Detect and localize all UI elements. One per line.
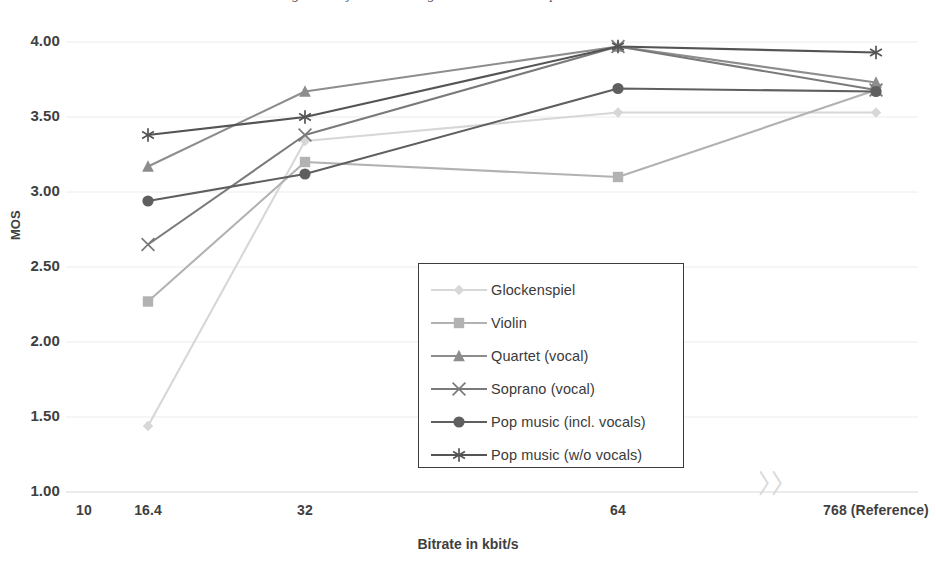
y-tick-label: 1.00 [6, 482, 60, 499]
series-line [142, 40, 882, 171]
mos-vs-bitrate-chart: Figure: Subjective listening test result… [0, 0, 936, 573]
legend-item: Soprano (vocal) [419, 372, 683, 405]
y-tick-label: 1.50 [6, 407, 60, 424]
legend-item: Pop music (incl. vocals) [419, 405, 683, 438]
y-tick-label: 2.50 [6, 257, 60, 274]
legend-item-label: Glockenspiel [491, 282, 575, 298]
y-tick-label: 4.00 [6, 32, 60, 49]
legend-item-label: Quartet (vocal) [491, 348, 588, 364]
diamond-marker [427, 280, 491, 300]
legend-item: Violin [419, 306, 683, 339]
axis-break-icon: 〉〉 [758, 470, 780, 500]
asterisk-marker [427, 445, 491, 465]
legend-item-label: Violin [491, 315, 527, 331]
x-tick-label: 64 [610, 502, 626, 518]
series-line [142, 40, 883, 251]
y-tick-label: 2.00 [6, 332, 60, 349]
x-axis-title: Bitrate in kbit/s [417, 536, 518, 552]
y-tick-label: 3.50 [6, 107, 60, 124]
legend-item: Pop music (w/o vocals) [419, 438, 683, 471]
square-marker [427, 313, 491, 333]
series-line [142, 83, 881, 207]
x-tick-label: 16.4 [134, 502, 162, 518]
y-axis-title: MOS [8, 210, 23, 240]
x-tick-label: 32 [297, 502, 313, 518]
circle-marker [427, 412, 491, 432]
y-tick-label: 3.00 [6, 182, 60, 199]
legend-item-label: Pop music (w/o vocals) [491, 447, 642, 463]
x-tick-label: 768 (Reference) [823, 502, 929, 518]
legend-item: Glockenspiel [419, 273, 683, 306]
chart-legend: GlockenspielViolinQuartet (vocal)Soprano… [418, 263, 684, 468]
triangle-marker [427, 346, 491, 366]
cross-marker [427, 379, 491, 399]
legend-item: Quartet (vocal) [419, 339, 683, 372]
legend-item-label: Pop music (incl. vocals) [491, 414, 646, 430]
legend-item-label: Soprano (vocal) [491, 381, 595, 397]
x-tick-label: 10 [76, 502, 92, 518]
